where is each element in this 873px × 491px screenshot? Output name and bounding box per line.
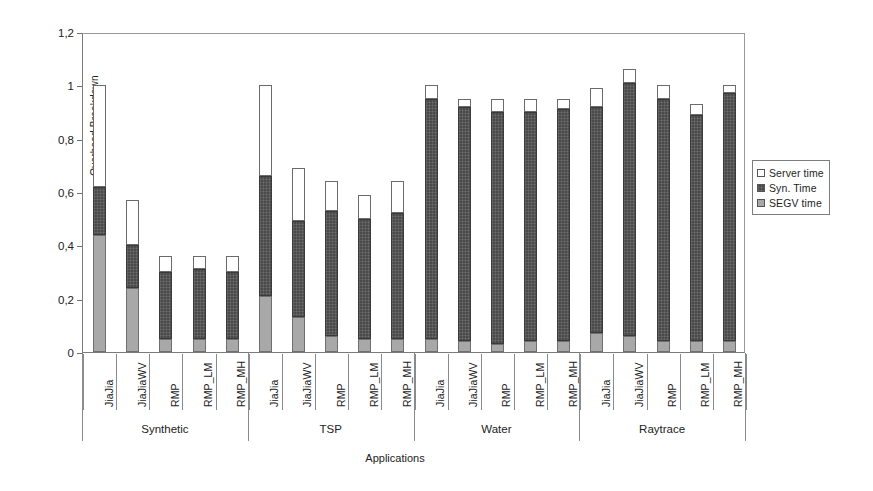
x-tick-label: JiaJiaWV: [301, 362, 313, 407]
x-tick-label: RMP_MH: [401, 361, 413, 407]
bar-segment-server-time: [690, 104, 703, 115]
x-axis-separator: [647, 354, 648, 410]
x-axis-separator: [613, 354, 614, 410]
x-tick-label: JiaJia: [600, 380, 612, 407]
x-axis-separator: [746, 354, 747, 410]
bar-segment-syn-time: [193, 269, 206, 338]
x-axis-separator: [216, 354, 217, 410]
legend-item: Server time: [757, 165, 824, 180]
y-tick-label: 0,6: [34, 187, 74, 199]
bar-segment-syn-time: [425, 99, 438, 339]
group-label: Raytrace: [579, 423, 745, 435]
stacked-bar: [524, 32, 537, 352]
bar-segment-server-time: [93, 85, 106, 186]
stacked-bar: [557, 32, 570, 352]
bar-segment-server-time: [259, 85, 272, 176]
legend-swatch-icon: [757, 184, 765, 192]
bar-segment-server-time: [623, 69, 636, 82]
bar-segment-segv-time: [690, 341, 703, 352]
bar-segment-server-time: [193, 256, 206, 269]
x-tick-label: RMP: [500, 383, 512, 407]
group-label: Synthetic: [82, 423, 248, 435]
bar-segment-segv-time: [557, 341, 570, 352]
bar-segment-segv-time: [391, 339, 404, 352]
stacked-bar: [425, 32, 438, 352]
bar-segment-segv-time: [723, 341, 736, 352]
stacked-bar: [458, 32, 471, 352]
legend-swatch-icon: [757, 169, 765, 177]
bar-segment-syn-time: [292, 221, 305, 317]
x-tick-label: RMP_LM: [368, 363, 380, 407]
x-axis-separator: [249, 354, 250, 410]
bar-segment-syn-time: [690, 115, 703, 342]
x-tick-label: RMP_LM: [699, 363, 711, 407]
legend-label: Syn. Time: [769, 182, 817, 194]
group-separator: [579, 353, 580, 441]
bar-segment-segv-time: [292, 317, 305, 352]
x-tick-label: RMP_MH: [235, 361, 247, 407]
x-tick-label: RMP_MH: [732, 361, 744, 407]
bar-segment-syn-time: [226, 272, 239, 339]
x-axis-separator: [348, 354, 349, 410]
x-tick-label: RMP: [169, 383, 181, 407]
bar-segment-server-time: [425, 85, 438, 98]
x-axis-separator: [282, 354, 283, 410]
stacked-bar: [259, 32, 272, 352]
bar-segment-server-time: [657, 85, 670, 98]
bar-segment-segv-time: [325, 336, 338, 352]
plot-area: [82, 33, 745, 353]
bar-segment-segv-time: [524, 341, 537, 352]
x-tick-label: RMP_LM: [202, 363, 214, 407]
y-tick-label: 1: [34, 80, 74, 92]
bar-segment-segv-time: [425, 339, 438, 352]
y-tick-label: 0: [34, 347, 74, 359]
bar-segment-syn-time: [93, 187, 106, 235]
stacked-bar: [623, 32, 636, 352]
x-axis-separator: [149, 354, 150, 410]
bar-segment-syn-time: [126, 245, 139, 288]
x-axis-separator: [481, 354, 482, 410]
bar-segment-syn-time: [325, 211, 338, 336]
bar-segment-segv-time: [623, 336, 636, 352]
bar-segment-server-time: [126, 200, 139, 245]
x-tick-label: JiaJia: [103, 380, 115, 407]
x-axis-separator: [315, 354, 316, 410]
bar-segment-syn-time: [491, 112, 504, 344]
x-axis-separator: [182, 354, 183, 410]
legend-swatch-icon: [757, 199, 765, 207]
x-tick-label: RMP_MH: [567, 361, 579, 407]
bar-segment-syn-time: [590, 107, 603, 334]
group-label: TSP: [248, 423, 414, 435]
bar-segment-server-time: [292, 168, 305, 221]
stacked-bar: [723, 32, 736, 352]
x-tick-label: JiaJia: [268, 380, 280, 407]
x-axis-separator: [83, 354, 84, 410]
bar-segment-segv-time: [590, 333, 603, 352]
bar-segment-syn-time: [259, 176, 272, 296]
legend-label: SEGV time: [769, 197, 822, 209]
bar-segment-server-time: [590, 88, 603, 107]
x-tick-label: RMP_LM: [534, 363, 546, 407]
x-axis-separator: [713, 354, 714, 410]
group-separator: [745, 353, 746, 441]
group-label: Water: [414, 423, 580, 435]
bar-segment-segv-time: [491, 344, 504, 352]
group-separator: [248, 353, 249, 441]
x-axis-title: Applications: [0, 452, 790, 464]
y-tick-label: 0,4: [34, 240, 74, 252]
bar-segment-server-time: [491, 99, 504, 112]
x-axis-separator: [547, 354, 548, 410]
bar-segment-server-time: [524, 99, 537, 112]
bar-segment-segv-time: [93, 235, 106, 352]
x-tick-label: JiaJia: [434, 380, 446, 407]
x-axis-separator: [680, 354, 681, 410]
stacked-bar: [126, 32, 139, 352]
group-separator: [82, 353, 83, 441]
bar-segment-segv-time: [226, 339, 239, 352]
bar-segment-server-time: [391, 181, 404, 213]
bar-segment-syn-time: [623, 83, 636, 336]
bar-segment-segv-time: [458, 341, 471, 352]
bar-segment-server-time: [159, 256, 172, 272]
bar-segment-syn-time: [159, 272, 172, 339]
bar-segment-server-time: [226, 256, 239, 272]
